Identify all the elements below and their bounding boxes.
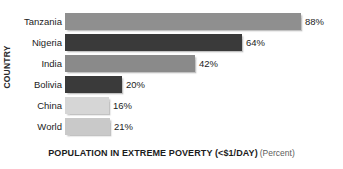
y-axis-title-label: COUNTRY (2, 45, 12, 88)
bar-india (65, 55, 195, 72)
bar-track: 64% (65, 33, 343, 52)
category-label-bolivia: Bolivia (14, 75, 62, 94)
bar-row: Tanzania 88% (14, 12, 343, 31)
x-axis-title-label: POPULATION IN EXTREME POVERTY (<$1/DAY) (48, 148, 258, 158)
bar-chart: COUNTRY Tanzania 88% Nigeria 64% India 4… (0, 0, 343, 169)
bar-value-tanzania: 88% (301, 12, 324, 31)
category-label-world: World (14, 117, 62, 136)
bar-value-world: 21% (110, 117, 133, 136)
bar-row: World 21% (14, 117, 343, 136)
bar-row: China 16% (14, 96, 343, 115)
bar-world (65, 118, 110, 135)
x-axis-title: POPULATION IN EXTREME POVERTY (<$1/DAY)(… (0, 142, 343, 160)
category-label-tanzania: Tanzania (14, 12, 62, 31)
bar-bolivia (65, 76, 122, 93)
bar-track: 16% (65, 96, 343, 115)
plot-area: Tanzania 88% Nigeria 64% India 42% Boliv… (14, 12, 343, 136)
category-label-nigeria: Nigeria (14, 33, 62, 52)
bar-row: Nigeria 64% (14, 33, 343, 52)
bar-track: 88% (65, 12, 343, 31)
y-axis-title: COUNTRY (0, 0, 14, 134)
bar-row: Bolivia 20% (14, 75, 343, 94)
category-label-india: India (14, 54, 62, 73)
x-axis-title-unit: (Percent) (258, 148, 295, 158)
bar-value-china: 16% (109, 96, 132, 115)
bar-track: 21% (65, 117, 343, 136)
bar-track: 42% (65, 54, 343, 73)
bar-value-india: 42% (195, 54, 218, 73)
bar-nigeria (65, 34, 242, 51)
bar-tanzania (65, 13, 301, 30)
category-label-china: China (14, 96, 62, 115)
bar-track: 20% (65, 75, 343, 94)
bar-row: India 42% (14, 54, 343, 73)
bar-value-nigeria: 64% (242, 33, 265, 52)
bar-value-bolivia: 20% (122, 75, 145, 94)
bar-china (65, 97, 109, 114)
